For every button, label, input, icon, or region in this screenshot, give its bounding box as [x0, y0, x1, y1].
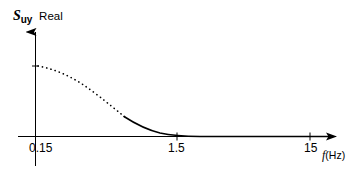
x-tick-label-1: 1.5 — [168, 142, 185, 154]
figure-container: SuyReal 0.15 1.5 15 f(Hz) — [0, 0, 360, 176]
x-axis-label: f(Hz) — [322, 149, 345, 161]
y-axis-label-subscript: uy — [21, 14, 32, 25]
data-curve-solid — [124, 117, 330, 137]
y-axis-label-symbol: S — [13, 8, 21, 23]
y-axis-label-qualifier: Real — [39, 10, 63, 22]
y-axis-label: SuyReal — [13, 9, 63, 25]
data-curve-dotted — [38, 66, 125, 117]
x-tick-label-0: 0.15 — [29, 142, 52, 154]
x-axis-label-unit: (Hz) — [325, 149, 345, 161]
x-tick-label-2: 15 — [304, 142, 317, 154]
